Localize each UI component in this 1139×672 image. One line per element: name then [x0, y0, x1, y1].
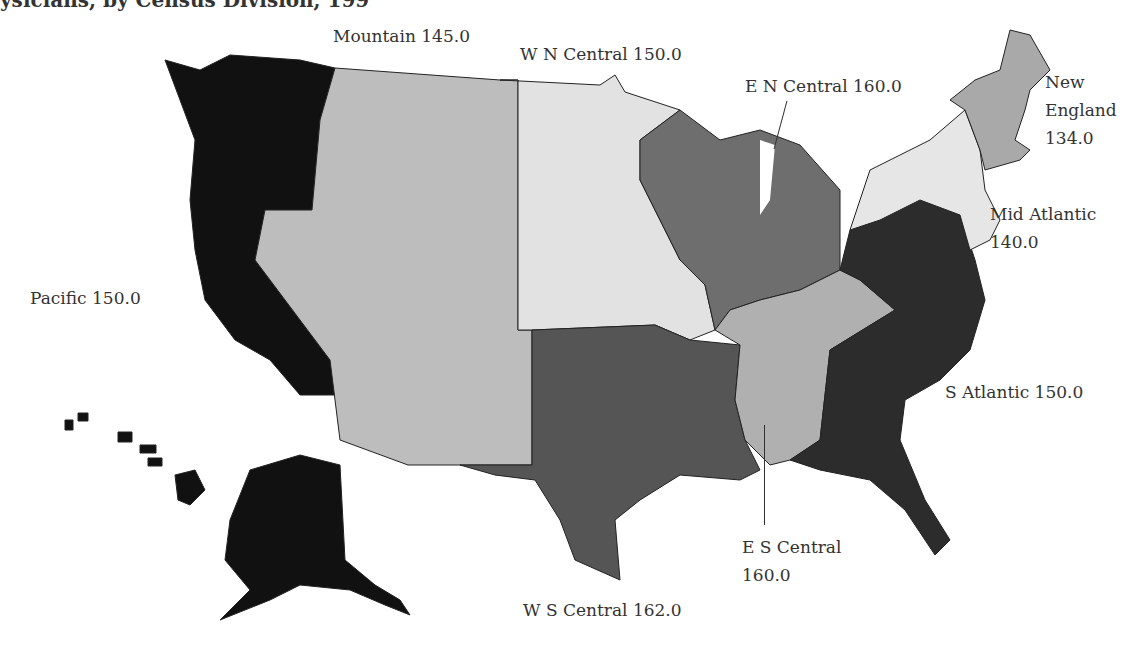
label-wncentral: W N Central 150.0 [520, 42, 682, 66]
us-map [0, 0, 1139, 672]
leader-escentral [764, 425, 765, 525]
label-wscentral: W S Central 162.0 [523, 598, 682, 622]
region-hawaii [65, 413, 205, 505]
label-pacific: Pacific 150.0 [30, 286, 141, 310]
label-escentral-1: E S Central [742, 535, 841, 559]
label-encentral: E N Central 160.0 [745, 74, 902, 98]
label-newengland-1: New [1045, 70, 1085, 94]
label-midatlantic-2: 140.0 [990, 230, 1039, 254]
label-newengland-3: 134.0 [1045, 126, 1094, 150]
label-newengland-2: England [1045, 98, 1117, 122]
label-escentral-2: 160.0 [742, 563, 791, 587]
label-satlantic: S Atlantic 150.0 [945, 380, 1083, 404]
label-midatlantic-1: Mid Atlantic [990, 202, 1096, 226]
label-mountain: Mountain 145.0 [333, 24, 470, 48]
region-alaska [220, 455, 410, 620]
